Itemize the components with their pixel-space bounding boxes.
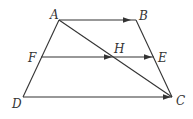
segment-fe bbox=[41, 54, 154, 59]
segment-ac bbox=[59, 20, 172, 97]
label-b: B bbox=[138, 9, 148, 23]
arrow-icon bbox=[144, 54, 152, 59]
label-f: F bbox=[27, 51, 37, 65]
label-h: H bbox=[113, 42, 125, 56]
label-c: C bbox=[176, 94, 185, 108]
label-e: E bbox=[157, 51, 167, 65]
label-d: D bbox=[11, 97, 22, 111]
label-a: A bbox=[49, 8, 59, 22]
trapezoid-diagram: A B C D E F H bbox=[0, 0, 193, 119]
arrow-icon bbox=[123, 17, 131, 22]
segment-dc bbox=[23, 94, 172, 99]
segment-ab bbox=[59, 17, 136, 22]
